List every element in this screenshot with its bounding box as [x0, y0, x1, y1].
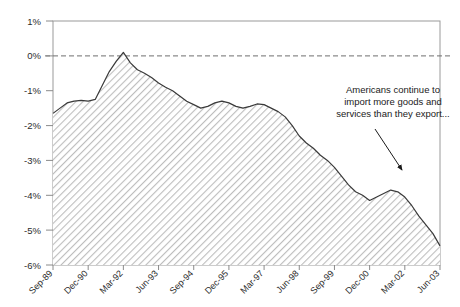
x-tick-label: Dec-90 [62, 268, 90, 296]
trade-balance-area-chart: 1% 0% -1% -2% -3% -4% -5% -6% Sep-89Dec-… [0, 0, 460, 307]
y-tick-label: -1% [24, 85, 41, 96]
y-tick-label: 0% [27, 50, 41, 61]
x-tick-label: Mar-97 [238, 268, 265, 295]
y-tick-label: -4% [24, 190, 41, 201]
x-tick-label: Jun-03 [415, 268, 442, 295]
y-tick-label: -3% [24, 155, 41, 166]
x-tick-label: Sep-94 [168, 268, 196, 296]
x-tick-label: Jun-93 [133, 268, 160, 295]
y-axis-labels: 1% 0% -1% -2% -3% -4% -5% -6% [24, 16, 41, 271]
y-tick-label: 1% [27, 16, 41, 27]
x-tick-label: Sep-99 [308, 268, 336, 296]
x-axis-ticks [53, 265, 440, 270]
x-tick-label: Jun-98 [274, 268, 301, 295]
x-tick-label: Mar-92 [98, 268, 125, 295]
annotation-line-2: import more goods and [344, 96, 442, 107]
x-tick-label: Dec-00 [343, 268, 371, 296]
x-tick-label: Mar-02 [379, 268, 406, 295]
x-tick-label: Sep-89 [27, 268, 55, 296]
x-tick-label: Dec-95 [203, 268, 231, 296]
y-axis-ticks [46, 21, 53, 265]
x-axis-labels: Sep-89Dec-90Mar-92Jun-93Sep-94Dec-95Mar-… [27, 268, 442, 296]
annotation-line-1: Americans continue to [346, 84, 440, 95]
y-tick-label: -5% [24, 225, 41, 236]
y-tick-label: -6% [24, 260, 41, 271]
y-tick-label: -2% [24, 120, 41, 131]
chart-container: 1% 0% -1% -2% -3% -4% -5% -6% Sep-89Dec-… [0, 0, 460, 307]
annotation-line-3: services than they export... [336, 108, 450, 119]
